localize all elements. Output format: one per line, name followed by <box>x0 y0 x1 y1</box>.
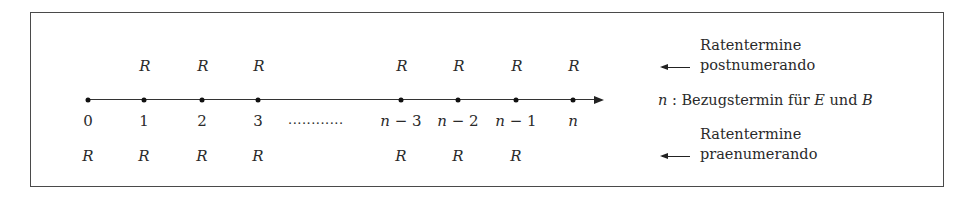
postnumerando-payment-R: R <box>253 57 264 75</box>
axis-label: 3 <box>253 112 263 130</box>
axis-label: n <box>568 112 578 130</box>
postnumerando-payment-R: R <box>139 57 150 75</box>
legend-prae-line2: praenumerando <box>700 144 817 164</box>
axis-label: 2 <box>197 112 207 130</box>
legend-reference: n : Bezugstermin für E und B <box>658 90 873 110</box>
praenumerando-payment-R: R <box>252 147 263 165</box>
axis-label: n − 3 <box>380 112 421 130</box>
legend-post-line1: Ratentermine <box>700 35 815 55</box>
praenumerando-payment-R: R <box>82 147 93 165</box>
legend-ref-var: n <box>658 92 667 108</box>
praenumerando-payment-R: R <box>196 147 207 165</box>
axis-tick-dot <box>142 98 147 103</box>
axis-label: n − 1 <box>495 112 536 130</box>
axis-tick-dot <box>456 98 461 103</box>
postnumerando-payment-R: R <box>511 57 522 75</box>
legend-ref-und: und <box>825 92 862 108</box>
axis-tick-dot <box>514 98 519 103</box>
postnumerando-payment-R: R <box>197 57 208 75</box>
postnumerando-payment-R: R <box>453 57 464 75</box>
legend-post-line2: postnumerando <box>700 55 815 75</box>
axis-tick-dot <box>256 98 261 103</box>
legend-postnumerando: Ratentermine postnumerando <box>700 35 815 75</box>
postnumerando-payment-R: R <box>396 57 407 75</box>
legend-ref-text: Bezugstermin für <box>681 92 814 108</box>
praenumerando-payment-R: R <box>452 147 463 165</box>
legend-praenumerando: Ratentermine praenumerando <box>700 124 817 164</box>
axis-label: 1 <box>139 112 149 130</box>
axis-tick-dot <box>571 98 576 103</box>
praenumerando-payment-R: R <box>510 147 521 165</box>
axis-label: n − 2 <box>437 112 478 130</box>
legend-ref-sep: : <box>667 92 681 108</box>
legend-ref-e: E <box>814 92 825 108</box>
postnumerando-payment-R: R <box>568 57 579 75</box>
ellipsis-dots: ............ <box>288 111 352 129</box>
legend-ref-b: B <box>862 92 873 108</box>
axis-tick-dot <box>399 98 404 103</box>
axis-tick-dot <box>86 98 91 103</box>
axis-tick-dot <box>200 98 205 103</box>
praenumerando-payment-R: R <box>138 147 149 165</box>
legend-prae-line1: Ratentermine <box>700 124 817 144</box>
time-axis <box>88 99 596 100</box>
praenumerando-payment-R: R <box>395 147 406 165</box>
axis-label: 0 <box>83 112 93 130</box>
axis-arrow-icon <box>594 96 604 104</box>
left-arrow-icon <box>662 67 690 68</box>
left-arrow-icon <box>662 156 690 157</box>
